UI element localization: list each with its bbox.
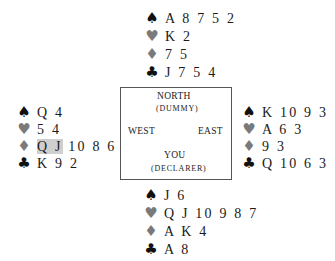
east-clubs: Q 10 6 3 — [262, 155, 328, 172]
table-diagram: NORTH (DUMMY) WEST EAST YOU (DECLARER) — [120, 87, 232, 180]
heart-icon: ♥ — [17, 121, 31, 138]
club-icon: ♣ — [17, 155, 31, 172]
north-role-label: (DUMMY) — [156, 104, 199, 113]
south-role-label: (DECLARER) — [151, 164, 207, 173]
diamond-icon: ♦ — [17, 138, 31, 155]
south-diamonds: A K 4 — [164, 223, 208, 240]
diamond-icon: ♦ — [242, 138, 256, 155]
club-icon: ♣ — [145, 64, 159, 81]
spade-icon: ♠ — [17, 104, 31, 121]
south-spades: J 6 — [164, 187, 187, 204]
heart-icon: ♥ — [144, 205, 158, 222]
spade-icon: ♠ — [144, 187, 158, 204]
east-diamonds: 9 3 — [262, 138, 286, 155]
east-spades: K 10 9 3 — [262, 104, 328, 121]
south-label: YOU — [164, 150, 185, 160]
west-spades: Q 4 — [37, 104, 64, 121]
north-clubs: J 7 5 4 — [165, 64, 217, 81]
north-spades: A 8 7 5 2 — [165, 10, 236, 27]
west-diamonds: Q J 10 8 6 2 — [37, 138, 131, 155]
north-diamonds: 7 5 — [165, 46, 189, 63]
west-hearts: 5 4 — [37, 121, 61, 138]
diamond-icon: ♦ — [145, 46, 159, 63]
club-icon: ♣ — [144, 241, 158, 258]
diamond-icon: ♦ — [144, 223, 158, 240]
north-label: NORTH — [157, 91, 191, 101]
club-icon: ♣ — [242, 155, 256, 172]
south-hearts: Q J 10 9 8 7 — [164, 205, 258, 222]
spade-icon: ♠ — [242, 104, 256, 121]
east-hearts: A 6 3 — [262, 121, 303, 138]
heart-icon: ♥ — [145, 28, 159, 45]
highlighted-cards: Q J — [37, 139, 63, 154]
west-label: WEST — [128, 126, 155, 136]
east-label: EAST — [198, 126, 223, 136]
north-hearts: K 2 — [165, 28, 192, 45]
spade-icon: ♠ — [145, 10, 159, 27]
west-clubs: K 9 2 — [37, 155, 79, 172]
heart-icon: ♥ — [242, 121, 256, 138]
south-clubs: A 8 — [164, 241, 190, 258]
